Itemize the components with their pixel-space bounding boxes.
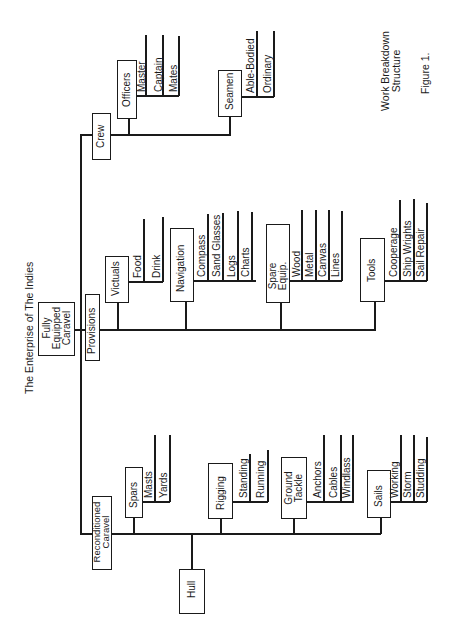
officers-item-master: Master — [137, 61, 147, 92]
spars-items-bar — [143, 501, 170, 503]
navigation-item-compass: Compass — [197, 235, 207, 277]
rigging-stem — [220, 518, 222, 534]
navigation-stem — [185, 301, 187, 330]
rigging-label: Rigging — [216, 476, 226, 510]
seamen-items-bar — [242, 96, 274, 98]
ground-item-cables: Cables — [329, 467, 339, 498]
provisions-line — [100, 329, 376, 331]
victuals-item-drink: Drink — [152, 255, 162, 278]
ground-tick-3 — [352, 435, 354, 502]
seamen-item-able-bodied: Able-Bodied — [246, 39, 256, 93]
rigging-items-bar — [233, 501, 268, 503]
tools-item-sail-repair: Sail Repair — [416, 228, 426, 277]
hull-stem — [191, 533, 193, 570]
sails-label: Sails — [374, 485, 384, 507]
victuals-item-food: Food — [133, 255, 143, 278]
sails-items-bar — [391, 501, 427, 503]
seamen-tick-1 — [256, 31, 258, 97]
rigging-item-running: Running — [256, 461, 266, 498]
tools-item-cooperage: Cooperage — [389, 228, 399, 277]
spare-line2: Equip. — [278, 256, 288, 296]
reconditioned-line — [80, 533, 381, 535]
provisions-label: Provisions — [87, 308, 97, 354]
tools-label: Tools — [367, 259, 377, 282]
reconditioned-line2: Caravel — [101, 494, 110, 570]
officers-stem — [128, 118, 130, 135]
ground-item-anchors: Anchors — [313, 461, 323, 498]
sails-item-storm: Storm — [403, 471, 413, 498]
caption-wbs: Work Breakdown Structure — [380, 26, 402, 116]
spare-stem — [280, 302, 282, 330]
sails-tick-3 — [426, 437, 428, 502]
navigation-tick-4 — [251, 212, 253, 281]
navigation-item-logs: Logs — [227, 255, 237, 277]
root-label: Fully Equipped Caravel — [42, 303, 72, 353]
victuals-items-bar — [129, 281, 163, 283]
tools-item-ship-wrights: Ship Wrights — [403, 220, 413, 277]
spare-item-wood: Wood — [292, 251, 302, 277]
spare-item-metal: Metal — [305, 253, 315, 277]
ground-label: Ground Tackle — [284, 464, 304, 512]
main-spine — [80, 135, 82, 534]
ground-item-windlass: Windlass — [342, 457, 352, 498]
spars-item-yards: Yards — [159, 473, 169, 498]
spare-item-lines: Lines — [331, 253, 341, 277]
spare-item-canvas: Canvas — [318, 243, 328, 277]
tools-items-bar — [385, 280, 427, 282]
officers-label: Officers — [122, 73, 132, 107]
navigation-item-sand-glasses: Sand Glasses — [212, 215, 222, 277]
spars-stem — [133, 518, 135, 534]
seamen-item-ordinary: Ordinary — [263, 55, 273, 93]
spars-tick-2 — [169, 435, 171, 502]
caption-line2: Structure — [391, 26, 402, 116]
spars-label: Spars — [129, 482, 139, 508]
victuals-tick-1 — [143, 219, 145, 282]
navigation-items-bar — [194, 280, 256, 282]
diagram-title: The Enterprise of The Indies — [24, 262, 35, 394]
sails-stem — [380, 517, 382, 534]
victuals-label: Victuals — [111, 261, 121, 296]
officers-items-bar — [137, 95, 179, 97]
tools-tick-1 — [399, 200, 401, 281]
tools-tick-3 — [426, 203, 428, 281]
spars-item-masts: Masts — [144, 471, 154, 498]
caption-figure: Figure 1. — [420, 53, 431, 94]
seamen-tick-2 — [273, 31, 275, 97]
root-line3: Caravel — [62, 303, 72, 353]
sails-item-studding: Studding — [416, 459, 426, 498]
seamen-stem — [229, 117, 231, 135]
seamen-label: Seamen — [225, 73, 235, 110]
rigging-item-standing: Standing — [239, 459, 249, 498]
spars-tick-1 — [154, 435, 156, 502]
ground-stem — [293, 518, 295, 534]
navigation-item-charts: Charts — [241, 248, 251, 277]
tools-stem — [374, 301, 376, 330]
rigging-tick-1 — [249, 454, 251, 502]
hull-label: Hull — [187, 581, 197, 598]
victuals-stem — [117, 302, 119, 330]
ground-tick-1 — [323, 435, 325, 502]
rigging-tick-2 — [267, 450, 269, 502]
reconditioned-label: Reconditioned Caravel — [92, 494, 110, 570]
officers-item-captain: Captain — [154, 58, 164, 92]
navigation-tick-2 — [222, 213, 224, 281]
spare-tick-4 — [341, 211, 343, 281]
ground-line2: Tackle — [294, 464, 304, 512]
navigation-label: Navigation — [176, 245, 186, 292]
officers-item-mates: Mates — [169, 65, 179, 92]
victuals-tick-2 — [162, 217, 164, 282]
sails-item-working: Working — [390, 462, 400, 499]
navigation-tick-1 — [207, 214, 209, 281]
ground-items-bar — [307, 501, 354, 503]
crew-label: Crew — [96, 125, 106, 148]
spare-label: Spare Equip. — [268, 256, 288, 296]
navigation-tick-3 — [237, 211, 239, 281]
